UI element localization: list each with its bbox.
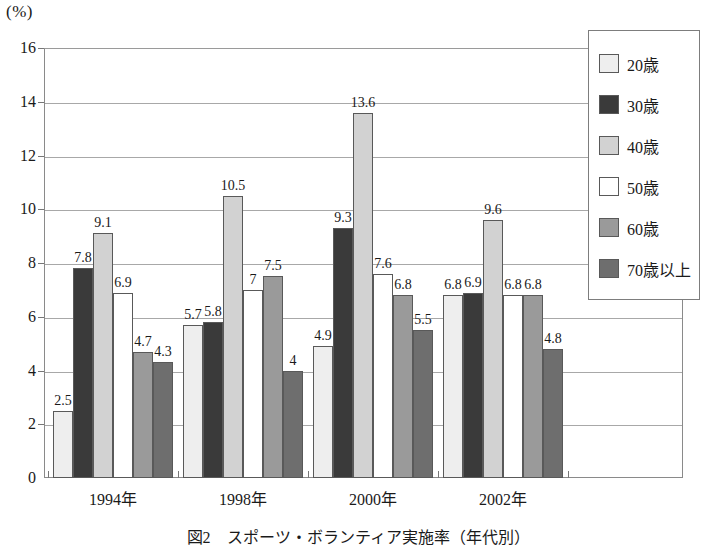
- bar: [73, 268, 93, 478]
- x-axis: 1994年1998年2000年2002年: [44, 486, 683, 516]
- bar: [543, 349, 563, 478]
- bar: [413, 330, 433, 478]
- bar: [373, 274, 393, 478]
- bar: [113, 293, 133, 478]
- bar-value-label: 10.5: [221, 178, 246, 194]
- y-tick-label: 16: [20, 39, 36, 57]
- y-axis: 0246810121416: [0, 0, 44, 543]
- legend-label: 30歳: [627, 93, 659, 117]
- bar: [443, 295, 463, 478]
- legend-swatch-icon: [599, 136, 619, 155]
- x-tick-mark: [568, 471, 569, 478]
- legend-swatch-icon: [599, 177, 619, 196]
- legend-swatch-icon: [599, 54, 619, 73]
- legend-item: 40歳: [599, 125, 699, 166]
- bar: [393, 295, 413, 478]
- bar: [313, 346, 333, 478]
- y-tick-label: 2: [28, 415, 36, 433]
- bar: [223, 196, 243, 478]
- legend-item: 70歳以上: [599, 248, 699, 289]
- legend-label: 20歳: [627, 52, 659, 76]
- bar: [203, 322, 223, 478]
- legend-swatch-icon: [599, 95, 619, 114]
- bar: [483, 220, 503, 478]
- legend-item: 60歳: [599, 207, 699, 248]
- bar-value-label: 9.1: [94, 215, 112, 231]
- legend-item: 20歳: [599, 43, 699, 84]
- bar-value-label: 6.8: [524, 277, 542, 293]
- bar-value-label: 6.8: [444, 277, 462, 293]
- x-axis-label: 1994年: [89, 486, 137, 510]
- bar-value-label: 6.9: [464, 275, 482, 291]
- x-tick-mark: [308, 471, 309, 478]
- bar-value-label: 4.7: [134, 334, 152, 350]
- bar-value-label: 4.8: [544, 331, 562, 347]
- bar: [53, 411, 73, 478]
- x-axis-label: 2002年: [479, 486, 527, 510]
- y-tick-label: 4: [28, 362, 36, 380]
- bar-value-label: 7: [250, 272, 257, 288]
- bar-value-label: 5.7: [184, 307, 202, 323]
- bar: [153, 362, 173, 478]
- x-tick-mark: [48, 471, 49, 478]
- bar-value-label: 2.5: [54, 393, 72, 409]
- bar-value-label: 7.8: [74, 250, 92, 266]
- bar-value-label: 7.6: [374, 256, 392, 272]
- bar: [463, 293, 483, 478]
- legend-label: 40歳: [627, 134, 659, 158]
- bar: [183, 325, 203, 478]
- x-axis-label: 1998年: [219, 486, 267, 510]
- bar: [243, 290, 263, 478]
- bar-value-label: 5.5: [414, 312, 432, 328]
- y-tick-label: 14: [20, 93, 36, 111]
- legend-swatch-icon: [599, 218, 619, 237]
- bar: [93, 233, 113, 478]
- bar-value-label: 13.6: [351, 95, 376, 111]
- legend-label: 70歳以上: [627, 257, 691, 281]
- bar-value-label: 4.3: [154, 344, 172, 360]
- chart-legend: 20歳30歳40歳50歳60歳70歳以上: [588, 30, 700, 300]
- legend-item: 50歳: [599, 166, 699, 207]
- bar-value-label: 9.3: [334, 210, 352, 226]
- bar: [283, 371, 303, 479]
- x-axis-label: 2000年: [349, 486, 397, 510]
- bar: [523, 295, 543, 478]
- bar: [263, 276, 283, 478]
- bar-value-label: 7.5: [264, 258, 282, 274]
- bar-value-label: 5.8: [204, 304, 222, 320]
- y-tick-label: 0: [28, 469, 36, 487]
- figure-caption: 図2 スポーツ・ボランティア実施率（年代別）: [0, 524, 716, 548]
- y-tick-label: 10: [20, 200, 36, 218]
- bar: [333, 228, 353, 478]
- legend-label: 60歳: [627, 216, 659, 240]
- legend-label: 50歳: [627, 175, 659, 199]
- legend-item: 30歳: [599, 84, 699, 125]
- bar: [353, 113, 373, 479]
- y-tick-label: 12: [20, 147, 36, 165]
- bar-value-label: 9.6: [484, 202, 502, 218]
- bar-value-label: 6.8: [504, 277, 522, 293]
- legend-swatch-icon: [599, 259, 619, 278]
- y-tick-label: 8: [28, 254, 36, 272]
- y-tick-label: 6: [28, 308, 36, 326]
- bar: [503, 295, 523, 478]
- bar-value-label: 4: [290, 353, 297, 369]
- bar-value-label: 6.9: [114, 275, 132, 291]
- bar: [133, 352, 153, 478]
- x-tick-mark: [438, 471, 439, 478]
- bar-value-label: 6.8: [394, 277, 412, 293]
- bar-value-label: 4.9: [314, 328, 332, 344]
- x-tick-mark: [178, 471, 179, 478]
